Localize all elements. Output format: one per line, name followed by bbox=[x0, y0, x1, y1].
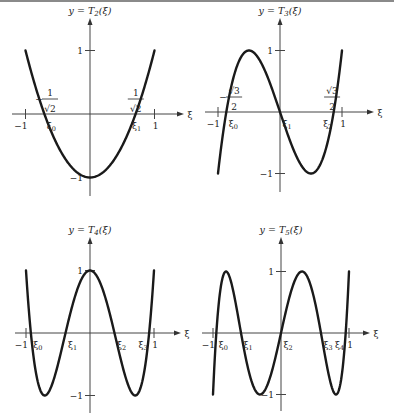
root-label: ξ2 bbox=[283, 340, 292, 352]
minus-sign: − bbox=[35, 94, 43, 104]
fraction-numerator: 1 bbox=[47, 88, 53, 98]
chart-title: y = T4(ξ) bbox=[68, 224, 112, 237]
root-label: ξ0 bbox=[219, 340, 228, 352]
y-tick-label-minus-one: −1 bbox=[260, 169, 273, 179]
root-label: ξ1 bbox=[68, 340, 77, 352]
fraction-numerator: √3 bbox=[228, 86, 240, 96]
root-label: ξ0 bbox=[47, 121, 56, 133]
y-axis-arrow-icon bbox=[88, 237, 93, 244]
x-tick-label-minus-one: −1 bbox=[207, 119, 220, 129]
root-value-annotation: √32 bbox=[324, 86, 340, 112]
x-tick-label-minus-one: −1 bbox=[202, 340, 215, 350]
fraction-denominator: √2 bbox=[130, 104, 141, 114]
y-axis-arrow-icon bbox=[278, 18, 283, 25]
x-tick-label-one: 1 bbox=[153, 121, 159, 131]
chart-T5: −111−1ξy = T5(ξ)ξ0ξ1ξ2ξ3ξ4 bbox=[202, 224, 379, 411]
fraction-denominator: √2 bbox=[44, 104, 55, 114]
y-tick-label-one: 1 bbox=[268, 267, 274, 277]
x-axis-arrow-icon bbox=[367, 110, 374, 115]
x-tick-label-one: 1 bbox=[347, 340, 353, 350]
x-tick-label-minus-one: −1 bbox=[15, 340, 28, 350]
y-tick-label-minus-one: −1 bbox=[70, 391, 83, 401]
x-axis-label: ξ bbox=[378, 108, 383, 118]
x-axis-label: ξ bbox=[185, 329, 190, 339]
x-axis-arrow-icon bbox=[174, 331, 181, 336]
chart-title: y = T2(ξ) bbox=[68, 5, 112, 18]
root-label: ξ0 bbox=[229, 119, 238, 131]
root-value-annotation: 1√2 bbox=[128, 88, 144, 114]
y-tick-label-one: 1 bbox=[267, 46, 273, 56]
root-label: ξ4 bbox=[335, 340, 344, 352]
chebyshev-figure: −111−1ξy = T2(ξ)ξ0ξ1−1√21√2−111−1ξy = T3… bbox=[0, 0, 394, 420]
fraction-denominator: 2 bbox=[231, 102, 237, 112]
x-tick-label-minus-one: −1 bbox=[14, 121, 27, 131]
root-value-annotation: −1√2 bbox=[35, 88, 58, 114]
y-tick-label-one: 1 bbox=[77, 266, 83, 276]
x-axis-label: ξ bbox=[188, 110, 193, 120]
x-axis-label: ξ bbox=[374, 329, 379, 339]
root-label: ξ3 bbox=[139, 340, 148, 352]
fraction-numerator: √3 bbox=[326, 86, 338, 96]
chart-T2: −111−1ξy = T2(ξ)ξ0ξ1−1√21√2 bbox=[12, 5, 193, 196]
minus-sign: − bbox=[219, 92, 227, 102]
chart-T4: −111−1ξy = T4(ξ)ξ0ξ1ξ2ξ3 bbox=[15, 224, 190, 413]
x-axis-arrow-icon bbox=[177, 112, 184, 117]
chart-title: y = T5(ξ) bbox=[259, 224, 303, 237]
root-label: ξ2 bbox=[323, 119, 332, 131]
root-label: ξ0 bbox=[33, 340, 42, 352]
x-tick-label-one: 1 bbox=[340, 119, 346, 129]
y-tick-label-one: 1 bbox=[77, 46, 83, 56]
chart-title: y = T3(ξ) bbox=[258, 5, 302, 18]
fraction-denominator: 2 bbox=[329, 102, 335, 112]
y-axis-arrow-icon bbox=[88, 18, 93, 25]
root-value-annotation: −√32 bbox=[219, 86, 242, 112]
x-axis-arrow-icon bbox=[363, 331, 370, 336]
x-tick-label-one: 1 bbox=[152, 340, 158, 350]
root-label: ξ1 bbox=[282, 119, 291, 131]
root-label: ξ1 bbox=[132, 121, 141, 133]
y-axis-arrow-icon bbox=[279, 237, 284, 244]
fraction-numerator: 1 bbox=[133, 88, 139, 98]
chart-T3: −111−1ξy = T3(ξ)ξ0ξ1ξ2−√32√32 bbox=[205, 5, 383, 192]
